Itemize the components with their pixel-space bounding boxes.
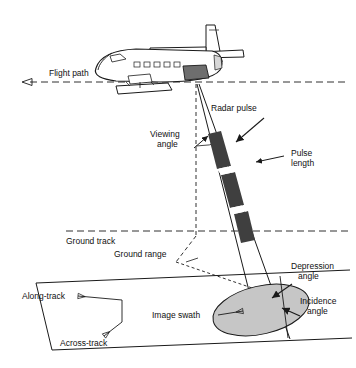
label-pulse-length-line2: length [291,158,314,168]
label-pulse-length-line1: Pulse [291,148,312,158]
radar-pulse-wavefronts [208,131,255,243]
label-depression-angle-line1: Depression [291,261,334,271]
label-depression-angle-line2: angle [298,271,319,281]
label-viewing-angle-line2: angle [157,139,178,149]
label-ground-track: Ground track [66,236,115,246]
radar-pulse-leader [236,118,264,142]
label-along-track: Along-track [22,291,65,301]
label-incidence-angle-line1: Incidence [300,296,336,306]
aircraft-icon [95,25,244,94]
label-incidence-angle-line2: angle [307,306,328,316]
label-viewing-angle-line1: Viewing [150,129,180,139]
label-across-track: Across-track [60,338,107,348]
nadir-line [176,84,196,262]
track-axes [78,296,122,336]
label-image-swath: Image swath [152,310,200,320]
radar-geometry-figure: Flight path Radar pulse Viewing angle Pu… [0,0,356,368]
label-ground-range: Ground range [114,249,166,259]
label-radar-pulse: Radar pulse [211,103,257,113]
label-flight-path: Flight path [49,68,89,78]
pulse-length-leader [256,156,284,162]
image-swath-ellipse [208,276,314,345]
